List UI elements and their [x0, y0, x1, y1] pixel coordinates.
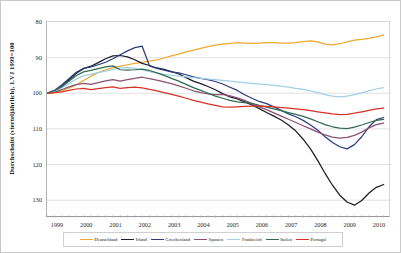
x-axis-tick-label: 2004 [197, 221, 209, 228]
x-axis-tick-label: 2007 [285, 221, 297, 228]
legend-swatch-icon [227, 239, 240, 240]
legend-label: Italien [280, 237, 292, 242]
legend-label: Irland [136, 237, 147, 242]
legend-item[interactable]: Italien [266, 237, 292, 242]
chart-figure: Durchschnitt (vierteljährlich), 1.VJ 199… [0, 0, 401, 253]
series-line [47, 56, 384, 206]
x-axis-tick-label: 2001 [109, 221, 121, 228]
series-line [47, 35, 384, 93]
x-axis-tick-label: 2002 [139, 221, 151, 228]
y-axis-title-text: Durchschnitt (vierteljährlich), 1.VJ 199… [8, 42, 15, 175]
legend-item[interactable]: Irland [121, 237, 146, 242]
legend-label: Portugal [311, 237, 327, 242]
series-line [47, 46, 384, 149]
legend-label: Griechenland [165, 237, 190, 242]
legend-item[interactable]: Spanien [194, 237, 223, 242]
x-axis-tick-label: 2000 [80, 221, 92, 228]
legend-label: Frankreich [242, 237, 262, 242]
x-axis-tick-label: 1999 [51, 221, 63, 228]
y-axis-tick-label: 90 [36, 53, 42, 60]
legend-swatch-icon [121, 239, 134, 240]
plot-wrapper: 8090100110120130199920002001200220032004… [46, 21, 390, 217]
x-axis-tick-label: 2009 [344, 221, 356, 228]
y-axis-tick-label: 100 [32, 89, 42, 96]
y-axis-title: Durchschnitt (vierteljährlich), 1.VJ 199… [3, 1, 19, 216]
series-line [47, 66, 384, 129]
x-axis-tick-label: 2008 [314, 221, 326, 228]
legend-swatch-icon [266, 239, 279, 240]
chart-legend: DeutschlandIrlandGriechenlandSpanienFran… [63, 232, 343, 247]
series-line [47, 87, 384, 115]
x-axis-tick-label: 2003 [168, 221, 180, 228]
legend-swatch-icon [80, 239, 93, 240]
legend-swatch-icon [296, 239, 309, 240]
legend-swatch-icon [194, 239, 207, 240]
y-axis-tick-label: 80 [36, 18, 42, 25]
plot-area [46, 21, 390, 217]
x-axis-tick-label: 2006 [256, 221, 268, 228]
y-axis-tick-label: 130 [32, 196, 42, 203]
legend-label: Deutschland [94, 237, 117, 242]
legend-item[interactable]: Griechenland [151, 237, 190, 242]
legend-item[interactable]: Deutschland [80, 237, 117, 242]
legend-item[interactable]: Frankreich [227, 237, 261, 242]
legend-item[interactable]: Portugal [296, 237, 326, 242]
y-axis-tick-label: 110 [33, 124, 42, 131]
x-axis-tick-label: 2010 [373, 221, 385, 228]
x-axis-tick-label: 2005 [226, 221, 238, 228]
y-axis-tick-label: 120 [32, 160, 42, 167]
legend-swatch-icon [151, 239, 164, 240]
legend-label: Spanien [209, 237, 224, 242]
